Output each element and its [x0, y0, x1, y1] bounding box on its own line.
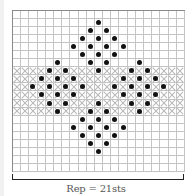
- stitch-dot-icon: [55, 92, 60, 97]
- stitch-dot-icon: [88, 109, 93, 114]
- chart-cell-cross: [70, 100, 78, 108]
- chart-cell-cross: [144, 75, 152, 83]
- stitch-dot-icon: [112, 52, 117, 57]
- chart-cell: [103, 43, 111, 51]
- chart-cell: [95, 164, 103, 172]
- stitch-dot-icon: [104, 125, 109, 130]
- chart-cell: [38, 19, 46, 27]
- chart-cell: [128, 27, 136, 35]
- chart-cell: [54, 19, 62, 27]
- chart-cell-cross: [144, 108, 152, 116]
- chart-cell-cross: [29, 100, 37, 108]
- chart-cell-cross: [128, 108, 136, 116]
- chart-cell: [21, 132, 29, 140]
- chart-cell-cross: [152, 75, 160, 83]
- chart-cell-cross: [87, 83, 95, 91]
- chart-cell: [87, 140, 95, 148]
- knitting-chart-grid: [12, 10, 185, 172]
- chart-cell: [169, 19, 177, 27]
- chart-cell-cross: [169, 108, 177, 116]
- chart-cell: [177, 59, 185, 67]
- chart-cell: [160, 59, 168, 67]
- chart-cell-cross: [169, 75, 177, 83]
- chart-cell: [62, 35, 70, 43]
- stitch-dot-icon: [47, 68, 52, 73]
- chart-cell: [177, 164, 185, 172]
- chart-cell-cross: [70, 108, 78, 116]
- page-edge: [0, 0, 4, 196]
- chart-cell: [128, 59, 136, 67]
- chart-cell: [70, 19, 78, 27]
- chart-cell: [144, 148, 152, 156]
- chart-cell: [103, 27, 111, 35]
- chart-cell: [128, 19, 136, 27]
- chart-cell-cross: [79, 108, 87, 116]
- chart-cell-cross: [29, 108, 37, 116]
- chart-cell: [21, 156, 29, 164]
- chart-cell: [152, 116, 160, 124]
- chart-cell-cross: [29, 83, 37, 91]
- chart-cell: [87, 19, 95, 27]
- chart-cell: [13, 164, 21, 172]
- stitch-dot-icon: [80, 117, 85, 122]
- stitch-dot-icon: [63, 101, 68, 106]
- chart-cell: [144, 164, 152, 172]
- chart-cell: [136, 27, 144, 35]
- chart-cell: [144, 116, 152, 124]
- chart-cell-cross: [128, 75, 136, 83]
- chart-cell: [29, 148, 37, 156]
- chart-cell: [128, 116, 136, 124]
- stitch-dot-icon: [80, 52, 85, 57]
- chart-cell: [87, 148, 95, 156]
- chart-cell: [79, 132, 87, 140]
- chart-cell: [54, 51, 62, 59]
- chart-cell-cross: [103, 75, 111, 83]
- stitch-dot-icon: [129, 84, 134, 89]
- chart-cell-cross: [46, 83, 54, 91]
- chart-cell-cross: [46, 75, 54, 83]
- chart-cell: [70, 43, 78, 51]
- chart-cell: [13, 59, 21, 67]
- stitch-dot-icon: [71, 76, 76, 81]
- chart-cell-cross: [95, 108, 103, 116]
- chart-cell: [13, 148, 21, 156]
- chart-cell: [79, 140, 87, 148]
- chart-cell-cross: [62, 75, 70, 83]
- chart-cell: [169, 11, 177, 19]
- chart-cell-cross: [152, 83, 160, 91]
- chart-cell: [177, 43, 185, 51]
- chart-cell: [29, 35, 37, 43]
- chart-cell: [119, 132, 127, 140]
- chart-cell: [54, 124, 62, 132]
- chart-cell: [177, 11, 185, 19]
- chart-cell: [62, 27, 70, 35]
- chart-cell: [95, 35, 103, 43]
- chart-cell: [79, 11, 87, 19]
- chart-cell: [144, 51, 152, 59]
- chart-cell: [38, 116, 46, 124]
- chart-cell-cross: [103, 91, 111, 99]
- chart-cell: [95, 43, 103, 51]
- chart-cell: [160, 124, 168, 132]
- chart-cell: [160, 43, 168, 51]
- chart-cell: [13, 116, 21, 124]
- chart-cell-cross: [21, 83, 29, 91]
- chart-cell: [87, 156, 95, 164]
- chart-cell-cross: [87, 91, 95, 99]
- stitch-dot-icon: [121, 44, 126, 49]
- stitch-dot-icon: [137, 76, 142, 81]
- chart-cell-cross: [13, 67, 21, 75]
- chart-cell: [62, 148, 70, 156]
- chart-cell: [54, 27, 62, 35]
- chart-cell: [136, 11, 144, 19]
- chart-cell: [54, 35, 62, 43]
- chart-cell: [128, 124, 136, 132]
- stitch-dot-icon: [104, 28, 109, 33]
- chart-cell: [119, 140, 127, 148]
- chart-cell: [103, 59, 111, 67]
- chart-cell: [62, 156, 70, 164]
- stitch-dot-icon: [96, 52, 101, 57]
- chart-cell: [62, 140, 70, 148]
- chart-cell: [79, 43, 87, 51]
- chart-cell-cross: [160, 75, 168, 83]
